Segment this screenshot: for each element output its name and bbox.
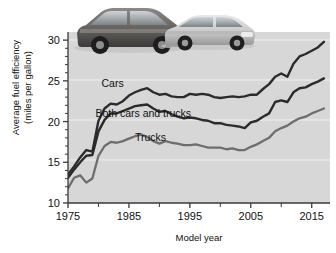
x-axis-major-ticks (68, 203, 312, 208)
y-tick-label: 10 (48, 197, 60, 209)
y-axis-title-line2: (miles per gallon) (21, 23, 33, 153)
y-tick-label: 15 (48, 156, 60, 168)
x-tick-label: 1995 (178, 210, 202, 222)
x-tick-label: 2005 (239, 210, 263, 222)
y-tick-label: 30 (48, 34, 60, 46)
x-tick-label: 1985 (117, 210, 141, 222)
x-axis-title: Model year (68, 232, 330, 243)
x-axis-tick-labels: 19751985199520052015 (56, 210, 324, 222)
annotation-trucks: Trucks (135, 131, 166, 143)
annotation-cars: Cars (102, 77, 124, 89)
y-axis-title: Average fuel efficiency (miles per gallo… (10, 23, 33, 153)
chart-canvas: Cars Both cars and trucks Trucks 1520253… (0, 0, 336, 253)
x-tick-label: 1975 (56, 210, 80, 222)
sedan-photo (161, 15, 255, 51)
y-axis-title-line1: Average fuel efficiency (10, 23, 22, 153)
annotation-both-cars-and-trucks: Both cars and trucks (95, 107, 191, 119)
fuel-efficiency-chart: Cars Both cars and trucks Trucks 1520253… (0, 0, 336, 253)
y-axis-tick-labels: 1520253010 (48, 34, 60, 209)
x-tick-label: 2015 (299, 210, 323, 222)
y-tick-label: 25 (48, 75, 60, 87)
y-tick-label: 20 (48, 116, 60, 128)
